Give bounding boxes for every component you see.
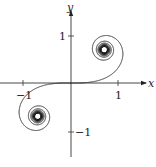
- y-axis-label: y: [66, 1, 74, 14]
- x-axis-label: x: [148, 77, 155, 90]
- cornu-spiral-plot: x y −1 1 1 −1: [0, 0, 156, 167]
- y-tick-label-1: 1: [59, 30, 66, 43]
- x-tick-label-1: 1: [115, 89, 122, 102]
- y-tick-label-neg1: −1: [75, 126, 91, 139]
- x-tick-label-neg1: −1: [16, 89, 32, 102]
